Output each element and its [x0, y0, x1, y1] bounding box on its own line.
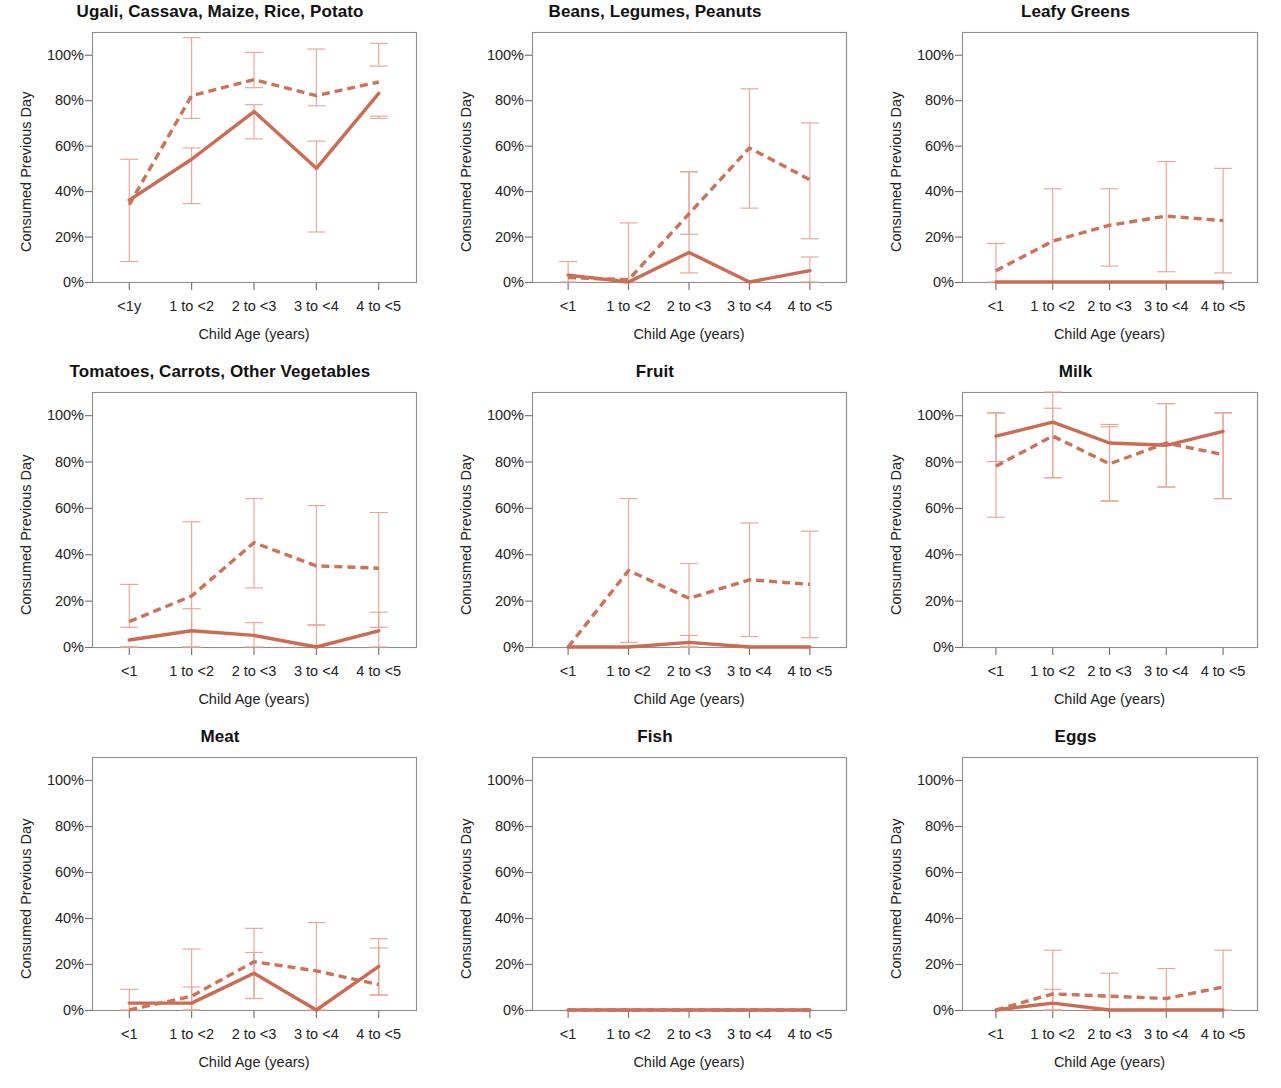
y-tick-label: 0% [900, 274, 954, 290]
chart-panel: MilkConsumed Previous DayChild Age (year… [870, 360, 1281, 725]
y-tick-label: 40% [470, 183, 524, 199]
error-bar [1044, 408, 1062, 478]
x-tick-label: 2 to <3 [667, 1026, 712, 1042]
y-tick-label: 100% [900, 407, 954, 423]
x-tick-label: 2 to <3 [667, 663, 712, 679]
y-axis-label: Conusmed Previous Day [458, 454, 474, 614]
error-bar [987, 243, 1005, 282]
x-axis-label: Child Age (years) [962, 1054, 1257, 1070]
y-tick-label: 20% [900, 229, 954, 245]
x-tick-label: 3 to <4 [727, 1026, 772, 1042]
y-tick-label: 80% [900, 454, 954, 470]
chart-panel: Beans, Legumes, PeanutsConsumed Previous… [440, 0, 870, 360]
x-tick-label: 1 to <2 [606, 663, 651, 679]
error-bar [307, 49, 325, 106]
error-bar [1214, 950, 1232, 1010]
y-tick-label: 20% [470, 593, 524, 609]
y-tick-label: 40% [30, 183, 84, 199]
y-tick-label: 40% [900, 183, 954, 199]
plot-frame [963, 758, 1258, 1011]
x-tick-label: 1 to <2 [169, 1026, 214, 1042]
error-bar [801, 123, 819, 239]
error-bar [680, 172, 698, 235]
x-axis-label: Child Age (years) [962, 326, 1257, 342]
y-tick-label: 80% [30, 454, 84, 470]
error-bar [1044, 950, 1062, 1010]
x-axis-label: Child Age (years) [92, 1054, 416, 1070]
error-bar [1044, 189, 1062, 282]
plot-area [92, 757, 418, 1012]
y-tick-label: 20% [470, 229, 524, 245]
x-axis-label: Child Age (years) [532, 326, 846, 342]
x-axis-label: Child Age (years) [92, 691, 416, 707]
x-tick-label: 3 to <4 [294, 663, 339, 679]
panel-title: Tomatoes, Carrots, Other Vegetables [0, 362, 440, 382]
x-tick-label: <1 [121, 663, 138, 679]
error-bar [801, 531, 819, 638]
y-tick-label: 20% [900, 956, 954, 972]
x-tick-label: 1 to <2 [1030, 298, 1075, 314]
y-tick-label: 80% [30, 92, 84, 108]
y-tick-label: 100% [30, 47, 84, 63]
x-tick-label: <1 [988, 1026, 1005, 1042]
panel-title: Ugali, Cassava, Maize, Rice, Potato [0, 2, 440, 22]
x-tick-label: <1 [121, 1026, 138, 1042]
x-tick-label: 4 to <5 [356, 1026, 401, 1042]
small-multiples-figure: Ugali, Cassava, Maize, Rice, PotatoConsu… [0, 0, 1281, 1088]
y-tick-label: 80% [900, 818, 954, 834]
plot-area [92, 32, 418, 284]
y-tick-label: 40% [900, 910, 954, 926]
x-tick-label: 1 to <2 [606, 298, 651, 314]
chart-panel: Tomatoes, Carrots, Other VegetablesConsu… [0, 360, 440, 725]
x-tick-label: 3 to <4 [1144, 298, 1189, 314]
plot-frame [533, 758, 847, 1011]
x-axis-label: Child Age (years) [962, 691, 1257, 707]
x-tick-label: 2 to <3 [1087, 298, 1132, 314]
panel-title: Eggs [870, 727, 1281, 747]
y-tick-label: 100% [30, 407, 84, 423]
panel-title: Leafy Greens [870, 2, 1281, 22]
x-tick-label: 1 to <2 [1030, 663, 1075, 679]
chart-panel: FruitConusmed Previous DayChild Age (yea… [440, 360, 870, 725]
x-tick-label: 4 to <5 [356, 298, 401, 314]
chart-panel: EggsConsumed Previous DayChild Age (year… [870, 725, 1281, 1088]
y-tick-label: 20% [900, 593, 954, 609]
error-bar [1157, 969, 1175, 1010]
x-axis-label: Child Age (years) [92, 326, 416, 342]
y-tick-label: 60% [30, 138, 84, 154]
x-tick-label: 3 to <4 [727, 663, 772, 679]
x-tick-label: 3 to <4 [727, 298, 772, 314]
y-axis-label: Consumed Previous Day [888, 454, 904, 614]
y-tick-label: 60% [900, 138, 954, 154]
x-tick-label: 2 to <3 [232, 1026, 277, 1042]
x-tick-label: 2 to <3 [232, 663, 277, 679]
error-bar [370, 43, 388, 66]
error-bar [183, 522, 201, 647]
y-tick-label: 80% [470, 454, 524, 470]
y-tick-label: 0% [470, 274, 524, 290]
y-tick-label: 0% [470, 1002, 524, 1018]
y-tick-label: 0% [900, 639, 954, 655]
plot-area [532, 757, 848, 1012]
x-axis-label: Child Age (years) [532, 1054, 846, 1070]
panel-title: Milk [870, 362, 1281, 382]
y-tick-label: 40% [30, 546, 84, 562]
y-axis-label: Consumed Previous Day [18, 818, 34, 978]
x-tick-label: 2 to <3 [1087, 1026, 1132, 1042]
y-tick-label: 0% [900, 1002, 954, 1018]
plot-area [92, 392, 418, 649]
y-tick-label: 60% [30, 500, 84, 516]
x-tick-label: <1 [988, 298, 1005, 314]
error-bar [307, 923, 325, 1010]
x-tick-label: 1 to <2 [606, 1026, 651, 1042]
y-tick-label: 100% [470, 47, 524, 63]
plot-area [532, 392, 848, 649]
x-tick-label: 3 to <4 [1144, 1026, 1189, 1042]
error-bar [245, 105, 263, 139]
plot-area [962, 757, 1259, 1012]
error-bar [370, 116, 388, 118]
x-tick-label: <1 [560, 1026, 577, 1042]
y-tick-label: 60% [470, 500, 524, 516]
series-line-dashed [129, 80, 378, 205]
error-bar [680, 564, 698, 647]
